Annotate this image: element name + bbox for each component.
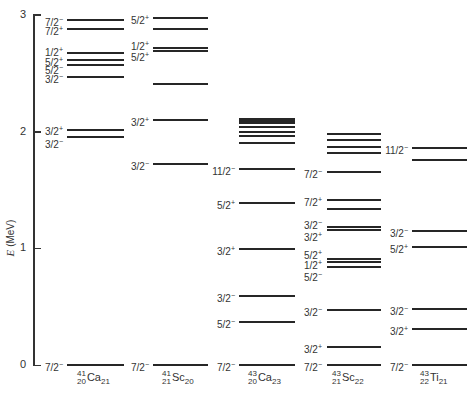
axis-tick-label: 0 <box>12 358 26 370</box>
energy-level <box>239 126 295 128</box>
energy-level <box>327 139 381 141</box>
axis-tick <box>33 248 41 250</box>
spin-parity-label: 3/2− <box>25 137 63 150</box>
axis-tick-label: 2 <box>12 125 26 137</box>
axis-tick-label: 3 <box>12 8 26 20</box>
spin-parity-label: 3/2+ <box>284 342 322 355</box>
energy-level <box>67 136 124 138</box>
spin-parity-label: 5/2+ <box>111 50 149 63</box>
energy-level <box>153 119 208 121</box>
spin-parity-label: 7/2− <box>370 360 408 373</box>
energy-level <box>327 258 381 260</box>
energy-level <box>239 120 295 122</box>
spin-parity-label: 11/2− <box>370 143 408 156</box>
spin-parity-label: 1/2+ <box>25 45 63 58</box>
energy-level <box>239 295 295 297</box>
spin-parity-label: 7/2− <box>284 360 322 373</box>
energy-level <box>239 142 295 144</box>
spin-parity-label: 3/2− <box>370 304 408 317</box>
energy-level <box>239 122 295 124</box>
energy-level <box>327 199 381 201</box>
spin-parity-label: 7/2− <box>197 360 235 373</box>
spin-parity-label: 3/2− <box>284 218 322 231</box>
energy-level <box>239 135 295 137</box>
spin-parity-label: 7/2− <box>25 15 63 28</box>
energy-level <box>153 83 208 85</box>
energy-level <box>412 246 467 248</box>
energy-level <box>327 133 381 135</box>
spin-parity-label: 7/2− <box>25 360 63 373</box>
spin-parity-label: 3/2+ <box>284 230 322 243</box>
spin-parity-label: 5/2− <box>197 317 235 330</box>
energy-level <box>153 47 208 49</box>
energy-level <box>153 17 208 19</box>
spin-parity-label: 3/2− <box>111 159 149 172</box>
spin-parity-label: 11/2− <box>197 164 235 177</box>
spin-parity-label: 5/2+ <box>111 13 149 26</box>
energy-level-diagram: E (MeV) 0123 7/2−3/2−3/2+3/2−5/2−5/2+1/2… <box>0 0 474 398</box>
spin-parity-label: 5/2+ <box>197 198 235 211</box>
energy-level <box>327 171 381 173</box>
energy-level <box>327 266 381 268</box>
spin-parity-label: 7/2− <box>111 360 149 373</box>
spin-parity-label: 7/2− <box>284 167 322 180</box>
spin-parity-label: 3/2+ <box>197 244 235 257</box>
nuclide-label: 4320Ca23 <box>248 370 281 386</box>
energy-level <box>67 28 124 30</box>
energy-level <box>153 50 208 52</box>
energy-level <box>327 346 381 348</box>
energy-level <box>327 208 381 210</box>
spin-parity-label: 5/2+ <box>284 248 322 261</box>
spin-parity-label: 3/2+ <box>111 115 149 128</box>
axis-tick-label: 1 <box>12 241 26 253</box>
spin-parity-label: 3/2− <box>197 291 235 304</box>
energy-level <box>239 118 295 120</box>
energy-level <box>412 147 467 149</box>
energy-level <box>67 64 124 66</box>
spin-parity-label: 7/2+ <box>284 195 322 208</box>
spin-parity-label: 3/2− <box>284 305 322 318</box>
nuclide-label: 4120Ca21 <box>77 370 110 386</box>
energy-level <box>67 76 124 78</box>
energy-level <box>412 328 467 330</box>
energy-level <box>412 364 467 366</box>
spin-parity-label: 1/2+ <box>111 39 149 52</box>
nuclide-label: 4321Sc22 <box>332 370 364 386</box>
nuclide-label: 4121Sc20 <box>162 370 194 386</box>
energy-level <box>412 308 467 310</box>
energy-level <box>327 261 381 263</box>
spin-parity-label: 3/2+ <box>25 124 63 137</box>
energy-level <box>153 28 208 30</box>
spin-parity-label: 5/2− <box>284 270 322 283</box>
nuclide-label: 4322Ti21 <box>420 370 448 386</box>
energy-level <box>67 129 124 131</box>
spin-parity-label: 3/2− <box>370 226 408 239</box>
spin-parity-label: 3/2+ <box>370 324 408 337</box>
energy-level <box>412 159 467 161</box>
energy-level <box>412 230 467 232</box>
energy-level <box>239 321 295 323</box>
energy-level <box>239 131 295 133</box>
spin-parity-label: 5/2+ <box>370 242 408 255</box>
